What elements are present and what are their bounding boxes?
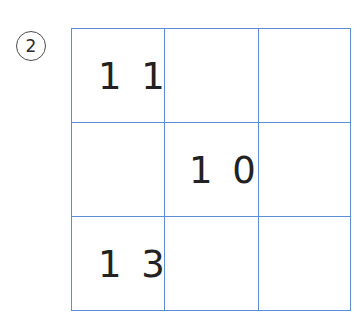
number-grid: 1 1 1 0 (71, 28, 347, 311)
grid-cell-r1-c2[interactable] (259, 123, 351, 217)
item-number-badge: 2 (16, 31, 46, 61)
cell-value-r2-c0: 1 3 (72, 246, 164, 283)
grid-cell-r0-c1[interactable] (165, 29, 259, 123)
grid-cell-r0-c2[interactable] (259, 29, 351, 123)
grid-cell-r2-c1[interactable] (165, 217, 259, 311)
item-number-label: 2 (26, 37, 37, 54)
table-row: 1 3 (72, 217, 351, 311)
table-row: 1 1 (72, 29, 351, 123)
grid-cell-r1-c0[interactable] (72, 123, 165, 217)
grid-cell-r2-c2[interactable] (259, 217, 351, 311)
grid-cell-r0-c0[interactable]: 1 1 (72, 29, 165, 123)
table-row: 1 0 (72, 123, 351, 217)
cell-value-r1-c1: 1 0 (165, 152, 258, 189)
grid-cell-r1-c1[interactable]: 1 0 (165, 123, 259, 217)
grid-cell-r2-c0[interactable]: 1 3 (72, 217, 165, 311)
cell-value-r0-c0: 1 1 (72, 58, 164, 95)
worksheet-canvas: 2 1 1 (0, 0, 360, 321)
grid-table: 1 1 1 0 (71, 28, 351, 311)
